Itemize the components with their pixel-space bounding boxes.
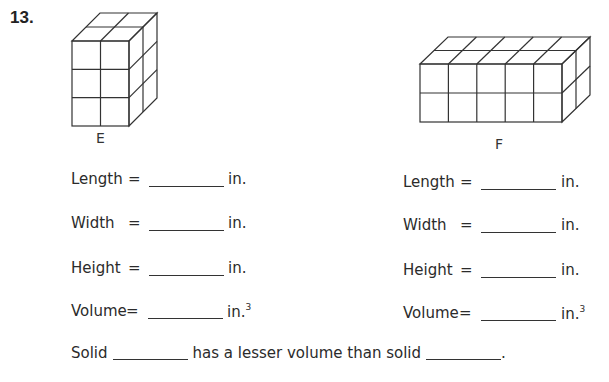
- unit-label: in.3: [561, 304, 585, 323]
- field-label: Length: [71, 170, 123, 188]
- solid-f-length-blank[interactable]: [481, 173, 556, 190]
- unit-label: in.3: [227, 302, 251, 321]
- solid-e-label: E: [96, 130, 105, 146]
- solid-e-length-row: Length = in.: [71, 170, 261, 192]
- equals-sign: =: [460, 173, 473, 191]
- unit-label: in.: [228, 214, 246, 232]
- equals-sign: =: [128, 259, 141, 277]
- solid-e-figure: [0, 0, 609, 160]
- field-label: Length: [403, 173, 455, 191]
- cubed-exponent: 3: [579, 304, 585, 314]
- equals-sign: =: [459, 304, 472, 322]
- solid-e-width-blank[interactable]: [149, 214, 224, 231]
- field-label: Volume: [403, 304, 459, 322]
- solid-f-label: F: [495, 136, 503, 152]
- greater-solid-blank[interactable]: [426, 345, 501, 360]
- solid-f-width-blank[interactable]: [481, 216, 556, 233]
- solid-f-height-row: Height = in.: [403, 261, 603, 283]
- solid-e-volume-blank[interactable]: [148, 302, 223, 319]
- solid-f-volume-row: Volume = in.3: [403, 304, 603, 326]
- unit-label: in.: [561, 216, 579, 234]
- solid-e-width-row: Width = in.: [71, 214, 261, 236]
- solid-e-length-blank[interactable]: [149, 170, 224, 187]
- sentence-prefix: Solid: [71, 344, 108, 362]
- solid-f-length-row: Length = in.: [403, 173, 603, 195]
- field-label: Width: [71, 214, 115, 232]
- unit-label: in.: [228, 259, 246, 277]
- field-label: Height: [403, 261, 453, 279]
- unit-label: in.: [561, 261, 579, 279]
- sentence-period: .: [501, 344, 506, 362]
- equals-sign: =: [128, 170, 141, 188]
- field-label: Volume: [71, 302, 127, 320]
- lesser-solid-blank[interactable]: [113, 345, 188, 360]
- sentence-middle: has a lesser volume than solid: [193, 344, 421, 362]
- solid-e-height-row: Height = in.: [71, 259, 261, 281]
- field-label: Height: [71, 259, 121, 277]
- solid-f-width-row: Width = in.: [403, 216, 603, 238]
- equals-sign: =: [128, 214, 141, 232]
- equals-sign: =: [460, 261, 473, 279]
- equals-sign: =: [126, 302, 139, 320]
- solid-f-volume-blank[interactable]: [481, 304, 556, 321]
- unit-label: in.: [561, 173, 579, 191]
- solid-f-height-blank[interactable]: [481, 261, 556, 278]
- comparison-sentence: Solidhas a lesser volume than solid.: [71, 344, 506, 362]
- field-label: Width: [403, 216, 447, 234]
- cubed-exponent: 3: [245, 302, 251, 312]
- solid-e-height-blank[interactable]: [149, 259, 224, 276]
- equals-sign: =: [460, 216, 473, 234]
- unit-label: in.: [228, 170, 246, 188]
- solid-e-volume-row: Volume = in.3: [71, 302, 261, 324]
- solid-f-figure: [420, 37, 590, 122]
